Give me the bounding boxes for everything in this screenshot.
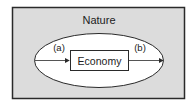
economy-label: Economy xyxy=(78,55,123,67)
arrow-in-label: (a) xyxy=(53,42,65,53)
diagram: Nature Economy (a) (b) xyxy=(0,0,194,107)
nature-label: Nature xyxy=(82,14,115,26)
arrow-out-label: (b) xyxy=(134,42,146,53)
